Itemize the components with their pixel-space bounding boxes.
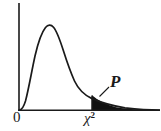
probability-density-curve [20, 25, 161, 110]
chi-square-distribution-chart [0, 0, 160, 131]
chi-exponent: 2 [91, 110, 96, 120]
x-axis-chi-square-label: χ2 [84, 110, 95, 126]
chi-square-figure: 0 χ2 P [0, 0, 160, 131]
origin-tick-label: 0 [13, 110, 21, 125]
tail-area-label: P [110, 73, 120, 90]
chi-symbol: χ [84, 110, 91, 126]
tail-label-leader-line [100, 87, 110, 97]
